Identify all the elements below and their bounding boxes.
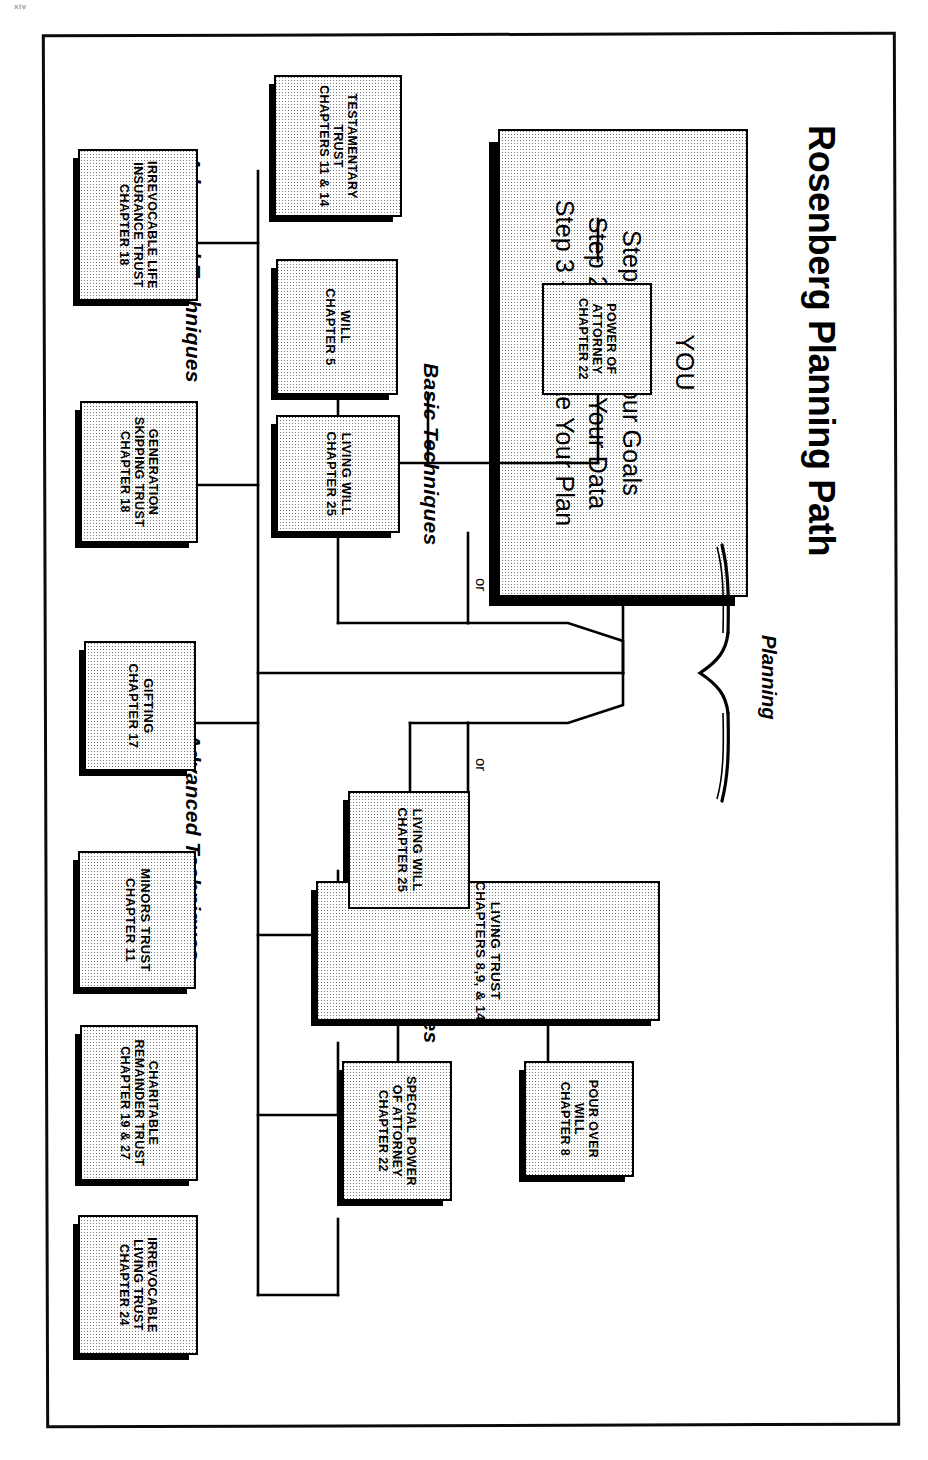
node-line: LIVING WILL: [338, 432, 353, 515]
node-line: CHAPTER 11: [122, 878, 137, 962]
node-line: CHAPTER 22: [576, 298, 590, 380]
node-line: TRUST: [331, 124, 345, 168]
node-special-power-of-attorney: SPECIAL POWER OF ATTORNEY CHAPTER 22: [342, 1061, 452, 1201]
node-irrevocable-life-insurance-trust: IRREVOCABLE LIFE INSURANCE TRUST CHAPTER…: [78, 149, 198, 301]
node-line: POWER OF: [604, 303, 618, 374]
node-line: CHAPTERS 11 & 14: [317, 85, 331, 207]
node-line: REMAINDER TRUST: [132, 1040, 146, 1167]
node-line: TESTAMENTARY: [345, 93, 359, 198]
node-line: CHAPTER 5: [322, 288, 337, 365]
node-line: CHAPTER 24: [117, 1244, 131, 1326]
node-line: CHAPTER 25: [394, 808, 409, 893]
node-line: CHAPTER 25: [323, 432, 338, 517]
node-living-will-upper: LIVING WILL CHAPTER 25: [348, 791, 470, 909]
node-line: OF ATTORNEY: [390, 1085, 404, 1177]
node-charitable-remainder-trust: CHARITABLE REMAINDER TRUST CHAPTER 19 & …: [80, 1025, 198, 1181]
node-line: LIVING TRUST: [131, 1239, 145, 1331]
node-line: CHAPTER 22: [376, 1090, 390, 1172]
node-line: LIVING TRUST: [488, 902, 503, 1001]
node-line: CHAPTER 8: [558, 1082, 572, 1156]
node-line: CHAPTER 17: [125, 664, 140, 749]
node-line: WILL: [337, 310, 352, 343]
node-line: SPECIAL POWER: [404, 1076, 418, 1186]
node-line: SKIPPING TRUST: [132, 417, 146, 527]
node-line: GIFTING: [140, 678, 155, 734]
node-minors-trust: MINORS TRUST CHAPTER 11: [78, 851, 196, 989]
node-line: WILL: [572, 1103, 586, 1135]
diagram-rotation-wrapper: Rosenberg Planning Path YOU Step 1 - Set…: [44, 33, 898, 1427]
node-line: POUR OVER: [586, 1080, 600, 1159]
node-line: GENERATION: [146, 429, 160, 515]
node-line: LIVING WILL: [409, 808, 424, 891]
node-generation-skipping-trust: GENERATION SKIPPING TRUST CHAPTER 18: [80, 401, 198, 543]
node-line: CHAPTER 18: [117, 184, 131, 266]
node-power-of-attorney: POWER OF ATTORNEY CHAPTER 22: [542, 283, 652, 395]
node-line: ATTORNEY: [590, 304, 604, 375]
node-irrevocable-living-trust: IRREVOCABLE LIVING TRUST CHAPTER 24: [78, 1215, 198, 1355]
page-folio: xiv: [14, 2, 27, 11]
node-line: CHAPTER 18: [118, 431, 132, 513]
node-living-will-lower: LIVING WILL CHAPTER 25: [276, 415, 400, 533]
node-line: CHAPTER 19 & 27: [118, 1046, 132, 1160]
node-line: IRREVOCABLE LIFE: [145, 161, 159, 289]
node-pour-over-will: POUR OVER WILL CHAPTER 8: [524, 1061, 634, 1177]
node-line: IRREVOCABLE: [145, 1237, 159, 1332]
node-testamentary-trust: TESTAMENTARY TRUST CHAPTERS 11 & 14: [274, 75, 402, 217]
node-line: CHAPTERS 8,9, & 14: [473, 881, 488, 1021]
node-line: CHARITABLE: [146, 1061, 160, 1145]
diagram-canvas: Rosenberg Planning Path YOU Step 1 - Set…: [44, 33, 898, 1427]
node-gifting: GIFTING CHAPTER 17: [84, 641, 196, 771]
node-will: WILL CHAPTER 5: [276, 259, 398, 395]
node-line: MINORS TRUST: [137, 868, 152, 972]
node-line: INSURANCE TRUST: [131, 162, 145, 287]
